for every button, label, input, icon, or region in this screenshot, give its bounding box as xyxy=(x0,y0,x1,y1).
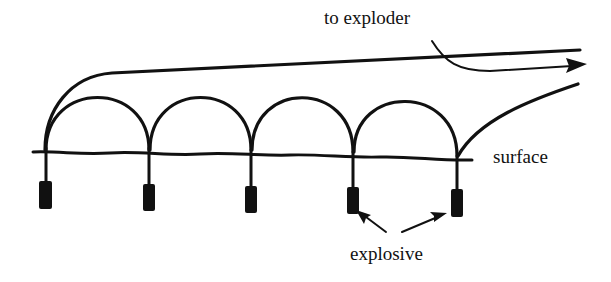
explosive-charge-2 xyxy=(143,184,155,211)
label-explosive: explosive xyxy=(350,244,423,263)
connecting-wire-arch-4 xyxy=(354,101,457,156)
explosive-charge-3 xyxy=(245,186,257,213)
explosive-arrowhead-right-icon xyxy=(430,212,447,222)
explosive-charge-1 xyxy=(39,181,52,209)
explosive-charge-5 xyxy=(451,189,463,217)
exploder-arrowhead-icon xyxy=(566,58,587,73)
circuit-diagram xyxy=(0,0,611,282)
label-to-exploder: to exploder xyxy=(324,8,410,27)
connecting-wire-arch-1 xyxy=(46,98,149,151)
explosive-charge-4 xyxy=(347,187,359,214)
label-surface: surface xyxy=(493,147,548,166)
diagram-canvas xyxy=(0,0,611,282)
connecting-wire-arch-3 xyxy=(252,98,353,152)
connecting-wire-arch-2 xyxy=(150,98,251,151)
